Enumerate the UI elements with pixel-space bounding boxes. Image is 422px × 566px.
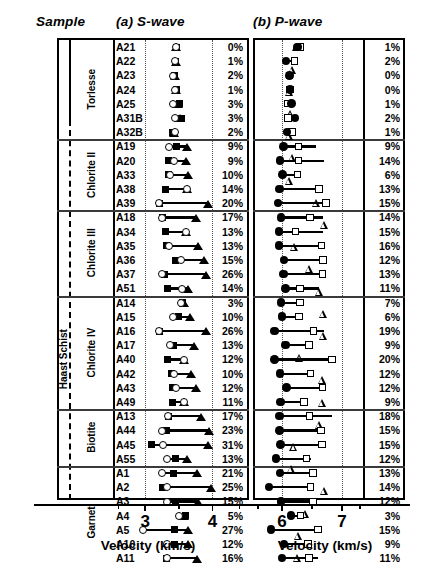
marker-open-square xyxy=(315,185,323,193)
marker-filled-circle xyxy=(275,227,284,236)
axis-minor-tick-p xyxy=(359,504,361,509)
anisotropy-percent-s: 12% xyxy=(195,537,243,551)
marker-filled-circle xyxy=(276,469,285,478)
range-line xyxy=(162,273,206,275)
axis-minor-tick-p xyxy=(311,504,313,509)
marker-open-square xyxy=(296,285,304,293)
range-line xyxy=(275,358,333,360)
range-line xyxy=(287,387,323,389)
marker-open-circle xyxy=(180,356,188,364)
marker-filled-circle xyxy=(277,298,286,307)
marker-open-circle xyxy=(165,143,173,151)
marker-filled-triangle xyxy=(199,256,209,264)
marker-open-circle xyxy=(180,398,188,406)
axis-line-s xyxy=(34,504,259,506)
marker-open-square xyxy=(307,483,315,491)
marker-filled-triangle xyxy=(196,413,206,421)
marker-filled-triangle xyxy=(186,370,196,378)
marker-filled-circle xyxy=(277,213,286,222)
plot-area-s-wave xyxy=(115,40,246,498)
header-panel-a: (a) S-wave xyxy=(116,14,185,29)
marker-open-circle xyxy=(175,512,183,520)
marker-filled-circle xyxy=(279,142,288,151)
axis-tick-label-s-3: 3 xyxy=(140,512,149,532)
marker-open-square xyxy=(328,356,336,364)
marker-open-circle xyxy=(177,256,185,264)
marker-filled-circle xyxy=(278,170,287,179)
range-line xyxy=(282,557,318,559)
marker-filled-circle xyxy=(276,369,285,378)
axis-minor-tick-s xyxy=(178,504,180,509)
marker-filled-square xyxy=(164,356,171,363)
marker-filled-square xyxy=(169,399,176,406)
group-label-chlorite-iv: Chlorite IV xyxy=(71,296,111,410)
marker-filled-triangle xyxy=(203,441,213,449)
anisotropy-percent-s: 27% xyxy=(195,523,243,537)
marker-open-circle xyxy=(169,72,177,80)
marker-open-circle xyxy=(171,86,179,94)
range-line xyxy=(159,202,207,204)
anisotropy-percent-s: 16% xyxy=(195,551,243,565)
marker-open-triangle xyxy=(319,310,327,318)
marker-filled-square xyxy=(173,143,180,150)
marker-open-circle xyxy=(158,469,166,477)
sample-label: A11 xyxy=(116,551,158,565)
marker-open-square xyxy=(295,157,303,165)
group-label-chlorite-iii: Chlorite III xyxy=(71,210,111,295)
axis-line-p xyxy=(250,504,410,506)
range-line xyxy=(281,216,322,218)
axis-minor-tick-s xyxy=(118,504,120,509)
marker-filled-circle xyxy=(276,398,285,407)
marker-filled-circle xyxy=(287,511,296,520)
marker-filled-triangle xyxy=(192,469,202,477)
marker-filled-triangle xyxy=(182,143,192,151)
marker-open-circle xyxy=(170,157,178,165)
marker-filled-square xyxy=(171,526,178,533)
marker-open-circle xyxy=(163,554,171,562)
marker-filled-circle xyxy=(267,525,276,534)
axis-tick-p-7 xyxy=(341,504,343,511)
range-line xyxy=(284,273,323,275)
marker-filled-circle xyxy=(287,99,296,108)
marker-filled-square xyxy=(148,441,155,448)
marker-open-square xyxy=(300,398,308,406)
axis-tick-s-4 xyxy=(212,504,214,511)
group-label-chlorite-ii: Chlorite II xyxy=(71,139,111,210)
header-sample: Sample xyxy=(36,14,85,29)
marker-filled-triangle xyxy=(181,157,191,165)
marker-open-circle xyxy=(158,214,166,222)
marker-open-circle xyxy=(182,228,190,236)
marker-open-circle xyxy=(166,171,174,179)
marker-open-circle xyxy=(172,384,180,392)
marker-filled-triangle xyxy=(201,327,211,335)
marker-filled-circle xyxy=(280,256,289,265)
marker-filled-circle xyxy=(278,312,287,321)
marker-open-square xyxy=(307,370,315,378)
axis-tick-s-3 xyxy=(144,504,146,511)
marker-filled-triangle xyxy=(183,526,193,534)
marker-open-circle xyxy=(163,483,171,491)
axis-title-p-wave: Velocity (km/s) xyxy=(278,538,373,553)
marker-open-square xyxy=(292,228,300,236)
marker-open-square xyxy=(319,270,327,278)
anisotropy-percent-s: 5% xyxy=(195,509,243,523)
marker-open-square xyxy=(295,313,303,321)
marker-open-triangle xyxy=(318,399,326,407)
marker-open-circle xyxy=(170,370,178,378)
marker-open-square xyxy=(318,441,326,449)
axis-tick-p-6 xyxy=(281,504,283,511)
marker-filled-circle xyxy=(275,185,284,194)
marker-filled-square xyxy=(172,455,179,462)
marker-open-circle xyxy=(169,100,177,108)
marker-filled-circle xyxy=(270,355,279,364)
marker-open-square xyxy=(306,214,314,222)
marker-filled-square xyxy=(164,285,171,292)
marker-open-square xyxy=(318,242,326,250)
marker-open-circle xyxy=(159,441,167,449)
marker-open-triangle xyxy=(285,177,293,185)
marker-filled-circle xyxy=(286,85,295,94)
marker-filled-square xyxy=(162,186,169,193)
axis-tick-label-p-7: 7 xyxy=(337,512,346,532)
marker-open-circle xyxy=(177,299,185,307)
plot-area-p-wave xyxy=(255,40,363,498)
